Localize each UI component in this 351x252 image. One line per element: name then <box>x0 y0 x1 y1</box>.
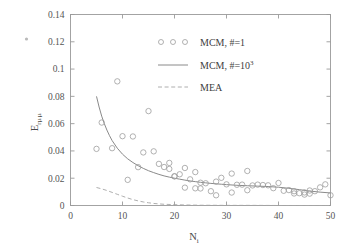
x-tick-label: 40 <box>274 211 284 221</box>
legend-marker-circle-2 <box>171 40 176 45</box>
artifact-speck <box>25 37 28 40</box>
y-axis-title: Erμᵢμᵢ <box>29 112 43 131</box>
scatter-point <box>245 188 250 193</box>
svg-text:Erμᵢμᵢ: Erμᵢμᵢ <box>29 112 43 131</box>
legend-item-mea: MEA <box>158 82 223 93</box>
scatter-point <box>219 175 224 180</box>
x-tick-label: 30 <box>222 211 232 221</box>
legend-marker-circle-3 <box>183 40 188 45</box>
x-tick-label: 50 <box>326 211 336 221</box>
scatter-point <box>317 185 322 190</box>
svg-text:MCM, #=1: MCM, #=1 <box>200 37 245 48</box>
legend-label-mea: MEA <box>200 82 223 93</box>
mcm-scatter-points <box>94 79 333 198</box>
legend: MCM, #=1 MCM, #=103 MEA <box>158 37 254 93</box>
legend-item-mcm1000: MCM, #=103 <box>158 59 254 71</box>
scatter-point <box>239 182 244 187</box>
scatter-point <box>109 146 114 151</box>
svg-text:Ni: Ni <box>189 231 199 245</box>
scatter-point <box>125 177 130 182</box>
figure-container: 01020304050 00.020.040.060.080.10.120.14… <box>0 0 351 252</box>
scatter-point <box>156 161 161 166</box>
scatter-point <box>161 164 166 169</box>
y-tick-label: 0.02 <box>48 174 65 184</box>
scatter-point <box>281 188 286 193</box>
scatter-point <box>177 172 182 177</box>
scatter-point <box>213 193 218 198</box>
x-tick-label: 10 <box>118 211 128 221</box>
legend-marker-circle-1 <box>159 40 164 45</box>
legend-label-mcm1000-exponent: 3 <box>250 59 254 67</box>
scatter-point <box>130 134 135 139</box>
scatter-point <box>271 185 276 190</box>
x-tick-label: 0 <box>68 211 73 221</box>
scatter-point <box>146 108 151 113</box>
mcm-solid-curve <box>97 96 331 193</box>
scatter-point <box>193 169 198 174</box>
legend-item-mcm1: MCM, #=1 <box>159 37 246 48</box>
scatter-point <box>276 180 281 185</box>
y-tick-label: 0.06 <box>48 119 65 129</box>
scatter-point <box>115 79 120 84</box>
chart-canvas: 01020304050 00.020.040.060.080.10.120.14… <box>0 0 351 252</box>
y-tick-labels: 00.020.040.060.080.10.120.14 <box>48 10 65 211</box>
scatter-point <box>120 133 125 138</box>
y-tick-label: 0.14 <box>48 10 65 20</box>
scatter-point <box>94 146 99 151</box>
x-tick-label: 20 <box>170 211 180 221</box>
y-tick-label: 0.12 <box>48 37 65 47</box>
x-tick-labels: 01020304050 <box>68 211 335 221</box>
scatter-point <box>297 191 302 196</box>
scatter-point <box>182 185 187 190</box>
scatter-point <box>167 166 172 171</box>
scatter-point <box>307 191 312 196</box>
scatter-point <box>323 182 328 187</box>
scatter-point <box>229 171 234 176</box>
x-axis-title: Ni <box>189 231 199 245</box>
y-tick-label: 0 <box>60 201 65 211</box>
scatter-point <box>265 183 270 188</box>
x-axis-title-sub: i <box>197 237 199 245</box>
scatter-point <box>245 168 250 173</box>
legend-label-mcm1000: MCM, #=10 <box>200 60 250 71</box>
y-axis-title-sub2: μᵢμᵢ <box>35 112 43 123</box>
legend-label-mcm1: MCM, #=1 <box>200 37 245 48</box>
scatter-point <box>167 160 172 165</box>
scatter-point <box>208 188 213 193</box>
scatter-point <box>193 186 198 191</box>
scatter-point <box>151 149 156 154</box>
svg-text:MCM, #=103: MCM, #=103 <box>200 59 254 71</box>
y-tick-label: 0.04 <box>48 146 65 156</box>
y-tick-label: 0.08 <box>48 92 65 102</box>
scatter-point <box>182 165 187 170</box>
scatter-point <box>198 186 203 191</box>
scatter-point <box>260 182 265 187</box>
scatter-point <box>229 190 234 195</box>
svg-text:MEA: MEA <box>200 82 223 93</box>
y-tick-label: 0.1 <box>53 64 65 74</box>
scatter-point <box>141 150 146 155</box>
